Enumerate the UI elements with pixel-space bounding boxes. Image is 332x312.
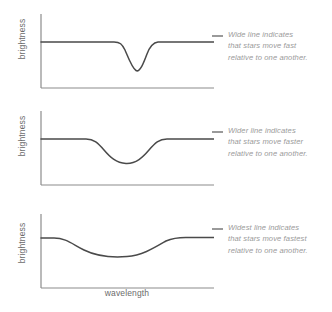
annotation-2-line-1: Wider line indicates [228,125,332,136]
annotation-3-line-2: that stars move fastest [228,233,332,244]
annotation-panel-3: Widest line indicates that stars move fa… [228,222,332,256]
plot-panel-3 [14,194,214,298]
annotation-dash-3 [212,228,223,230]
spectrum-curve-panel-3 [41,237,214,256]
spectrum-curve-panel-2 [41,139,214,164]
annotation-3-line-3: relative to one another. [228,245,332,256]
annotation-panel-1: Wide line indicates that stars move fast… [228,29,332,63]
spectral-line-broadening-figure: brightness brightness brightness wa [0,0,332,312]
annotation-3-line-1: Widest line indicates [228,222,332,233]
x-axis-label: wavelength [41,288,213,298]
annotation-panel-2: Wider line indicates that stars move fas… [228,125,332,159]
plot-panel-2 [14,97,214,201]
plot-panel-1 [14,0,214,104]
annotation-1-line-3: relative to one another. [228,52,332,63]
annotation-2-line-3: relative to one another. [228,148,332,159]
spectrum-curve-panel-1 [41,42,214,71]
annotation-dash-1 [212,35,223,37]
annotation-2-line-2: that stars move faster [228,136,332,147]
annotation-dash-2 [212,131,223,133]
annotation-1-line-2: that stars move fast [228,40,332,51]
annotation-1-line-1: Wide line indicates [228,29,332,40]
